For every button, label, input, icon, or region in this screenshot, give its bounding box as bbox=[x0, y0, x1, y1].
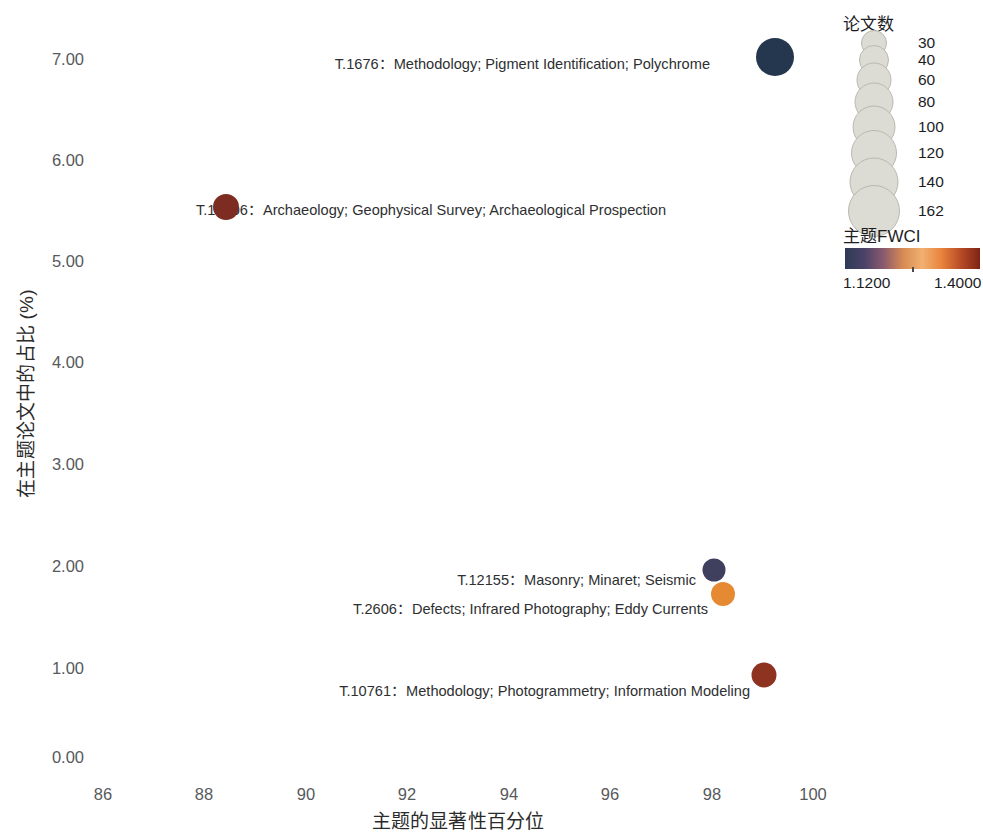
size-legend-label-60: 60 bbox=[918, 71, 935, 89]
colorbar-max-label: 1.4000 bbox=[934, 274, 981, 292]
data-point-t2606[interactable] bbox=[711, 582, 735, 606]
size-legend-label-80: 80 bbox=[918, 93, 935, 111]
color-legend-title: 主题FWCI bbox=[843, 222, 920, 247]
size-legend-label-140: 140 bbox=[918, 173, 944, 191]
size-legend-label-40: 40 bbox=[918, 51, 935, 69]
data-point-t10761[interactable] bbox=[751, 663, 776, 688]
plot-area: T.1676：Methodology; Pigment Identificati… bbox=[0, 0, 840, 790]
data-point-t1676[interactable] bbox=[756, 38, 794, 76]
point-label-t2606: T.2606：Defects; Infrared Photography; Ed… bbox=[10, 597, 708, 618]
colorbar-min-label: 1.1200 bbox=[843, 274, 890, 292]
color-legend-gradient-bar bbox=[845, 248, 980, 269]
point-label-t12406: T.12406：Archaeology; Geophysical Survey;… bbox=[196, 198, 796, 219]
point-label-t10761: T.10761：Methodology; Photogrammetry; Inf… bbox=[10, 679, 750, 700]
size-legend-label-120: 120 bbox=[918, 144, 944, 162]
legend-panel: 论文数 30406080100120140162 主题FWCI 1.1200 1… bbox=[838, 6, 983, 286]
point-label-t1676: T.1676：Methodology; Pigment Identificati… bbox=[10, 52, 710, 73]
point-label-t12155: T.12155：Masonry; Minaret; Seismic bbox=[10, 568, 696, 589]
size-legend-label-100: 100 bbox=[918, 118, 944, 136]
x-axis-title: 主题的显著性百分位 bbox=[258, 806, 658, 833]
data-point-t12406[interactable] bbox=[213, 194, 239, 220]
size-legend-label-162: 162 bbox=[918, 202, 944, 220]
colorbar-tick-mark bbox=[912, 267, 914, 272]
data-point-t12155[interactable] bbox=[703, 558, 726, 581]
size-legend-label-30: 30 bbox=[918, 34, 935, 52]
